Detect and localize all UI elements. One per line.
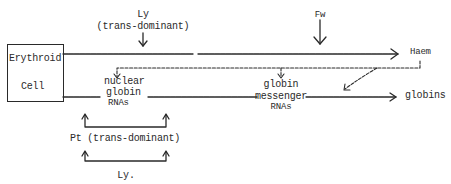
top-pathway-line (63, 49, 398, 59)
pt-bracket-arrows (82, 114, 169, 127)
ly-arrow-icon (139, 33, 147, 46)
fw-arrow-icon (314, 20, 326, 44)
haem-feedback-dashed-line (117, 61, 420, 89)
ly-bottom-bracket-arrows (82, 151, 169, 161)
diagram-arrows (0, 0, 451, 184)
